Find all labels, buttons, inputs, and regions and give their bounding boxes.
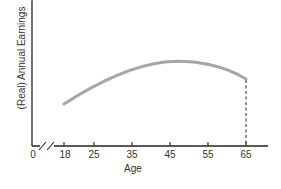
earnings-curve bbox=[64, 61, 246, 104]
x-tick-label: 18 bbox=[59, 149, 71, 160]
x-tick-label: 25 bbox=[88, 149, 100, 160]
age-earnings-chart: 0 18 25 35 45 55 65 Age (Real) Annual Ea… bbox=[0, 0, 281, 189]
y-axis-title: (Real) Annual Earnings bbox=[16, 7, 27, 110]
x-tick-label: 55 bbox=[202, 149, 214, 160]
x-tick-label: 65 bbox=[240, 149, 252, 160]
x-tick-label: 45 bbox=[164, 149, 176, 160]
x-tick-label: 35 bbox=[126, 149, 138, 160]
axis-break-icon bbox=[39, 141, 54, 151]
x-axis-title: Age bbox=[124, 163, 142, 174]
x-tick-label: 0 bbox=[30, 149, 36, 160]
